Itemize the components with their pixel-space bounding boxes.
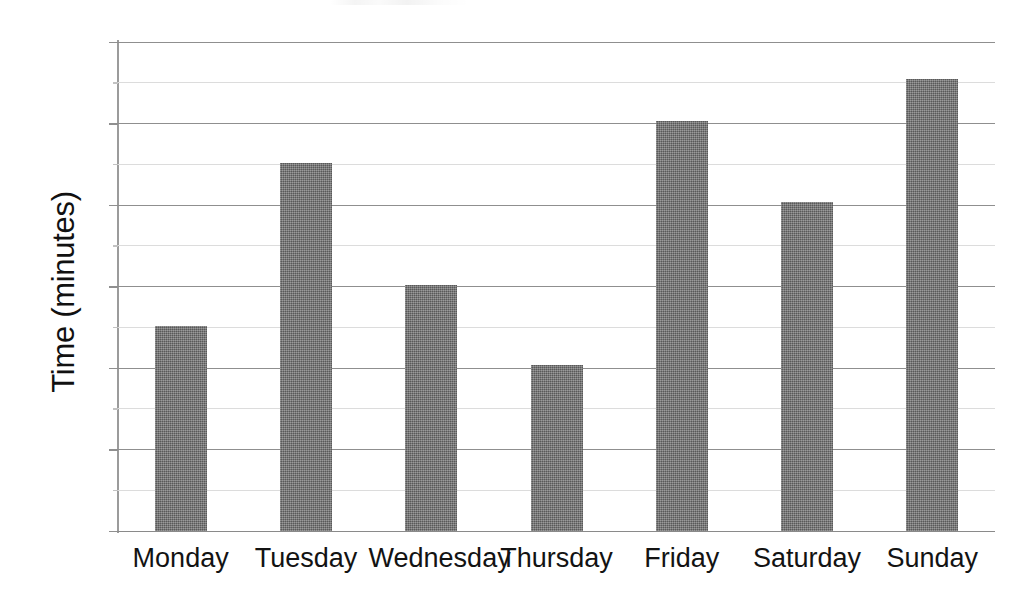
x-axis-tick-label-sunday: Sunday	[870, 545, 995, 572]
bar-sunday[interactable]	[906, 79, 958, 531]
bar-chart: Time (minutes) 0102030405060 MondayTuesd…	[0, 0, 1014, 603]
x-axis-tick-label-tuesday: Tuesday	[243, 545, 368, 572]
cropped-title-artifact	[330, 0, 470, 5]
y-axis-tick-minor	[113, 490, 118, 492]
y-axis-title: Time (minutes)	[46, 32, 82, 552]
plot-area	[118, 42, 995, 531]
gridline-major	[118, 42, 995, 43]
gridline-minor	[118, 327, 995, 328]
bar-friday[interactable]	[656, 121, 708, 531]
bar-thursday[interactable]	[531, 365, 583, 531]
y-axis-tick-major	[109, 205, 118, 207]
y-axis-tick-major	[109, 449, 118, 451]
y-axis-tick-minor	[113, 327, 118, 329]
x-axis-tick-label-saturday: Saturday	[744, 545, 869, 572]
gridline-major	[118, 123, 995, 124]
gridline-major	[118, 286, 995, 287]
x-axis-tick-label-wednesday: Wednesday	[369, 545, 494, 572]
x-axis-tick-label-friday: Friday	[619, 545, 744, 572]
y-axis-tick-major	[109, 286, 118, 288]
gridline-major	[118, 205, 995, 206]
x-axis-tick-label-thursday: Thursday	[494, 545, 619, 572]
y-axis-tick-major	[109, 42, 118, 44]
y-axis-tick-minor	[113, 408, 118, 410]
bar-monday[interactable]	[155, 326, 207, 531]
y-axis-tick-major	[109, 368, 118, 370]
y-axis-tick-minor	[113, 82, 118, 84]
bar-tuesday[interactable]	[280, 163, 332, 531]
gridline-minor	[118, 245, 995, 246]
gridline-minor	[118, 82, 995, 83]
bar-saturday[interactable]	[781, 202, 833, 531]
gridline-minor	[118, 164, 995, 165]
y-axis-tick-minor	[113, 245, 118, 247]
y-axis-tick-major	[109, 531, 118, 533]
y-axis-tick-minor	[113, 164, 118, 166]
x-axis-tick-label-monday: Monday	[118, 545, 243, 572]
bar-wednesday[interactable]	[405, 285, 457, 531]
y-axis-tick-major	[109, 123, 118, 125]
